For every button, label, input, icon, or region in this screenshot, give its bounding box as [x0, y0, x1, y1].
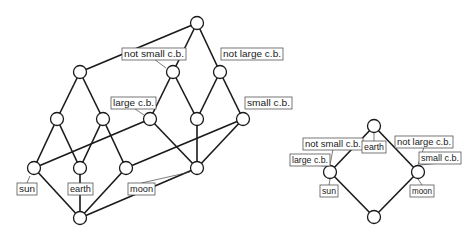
concept-label: not small c.b.	[122, 48, 186, 60]
concept-label: large c.b.	[290, 154, 330, 166]
label-text: small c.b.	[421, 152, 459, 163]
label-text: earth	[70, 183, 91, 194]
concept-label: not small c.b.	[303, 138, 363, 150]
label-leader-line	[80, 176, 81, 183]
concept-label: not large c.b.	[221, 48, 283, 60]
lattice-edge	[57, 72, 80, 119]
label-leader-line	[418, 179, 422, 185]
label-text: sun	[19, 183, 35, 194]
concept-label: large c.b.	[111, 97, 156, 109]
lattice-edge	[126, 119, 243, 168]
concept-node	[191, 17, 204, 30]
label-text: not large c.b.	[223, 48, 281, 59]
label-text: sun	[322, 185, 336, 196]
concept-node	[144, 113, 157, 126]
label-text: moon	[130, 183, 153, 194]
concept-label: small c.b.	[419, 152, 461, 164]
label-text: small c.b.	[247, 97, 290, 108]
right-concept-lattice: not small c.b.large c.b.earthsunnot larg…	[290, 120, 461, 224]
lattice-edge	[34, 119, 150, 168]
concept-node	[191, 162, 204, 175]
lattice-edge	[34, 119, 57, 168]
concept-node	[191, 113, 204, 126]
label-text: moon	[412, 185, 432, 196]
left-concept-lattice: not small c.b.not large c.b.large c.b.sm…	[17, 17, 292, 225]
lattice-edge	[197, 119, 243, 168]
label-text: not large c.b.	[397, 136, 451, 147]
label-text: earth	[364, 141, 384, 152]
concept-node	[412, 166, 425, 179]
lattice-edge	[173, 72, 197, 119]
concept-node	[97, 113, 110, 126]
lattice-edge	[57, 119, 80, 168]
label-leader-line	[27, 176, 30, 183]
concept-label: not large c.b.	[395, 136, 453, 148]
lattice-edge	[197, 72, 220, 119]
concept-label: small c.b.	[245, 97, 292, 109]
label-text: not small c.b.	[124, 48, 184, 59]
concept-node	[237, 113, 250, 126]
lattice-edge	[220, 72, 243, 119]
concept-node	[324, 166, 337, 179]
label-leader-line	[330, 149, 333, 165]
concept-label: sun	[17, 183, 37, 195]
concept-label: earth	[362, 141, 386, 153]
lattice-edge	[150, 72, 173, 119]
concept-lattice-diagrams: not small c.b.not large c.b.large c.b.sm…	[0, 0, 474, 238]
lattice-edge	[103, 119, 126, 168]
lattice-edge	[150, 119, 197, 168]
concept-label: earth	[68, 183, 93, 195]
concept-node	[74, 162, 87, 175]
lattice-edge	[80, 72, 103, 119]
concept-label: moon	[128, 183, 155, 195]
concept-label: sun	[320, 185, 338, 197]
concept-node	[74, 66, 87, 79]
concept-node	[120, 162, 133, 175]
concept-node	[28, 162, 41, 175]
concept-node	[167, 66, 180, 79]
lattice-edge	[197, 23, 220, 72]
concept-node	[214, 66, 227, 79]
concept-node	[368, 211, 381, 224]
concept-node	[74, 212, 87, 225]
concept-label: moon	[410, 185, 434, 197]
label-leader-line	[329, 179, 330, 185]
label-text: large c.b.	[292, 154, 328, 165]
concept-node	[368, 120, 381, 133]
label-text: not small c.b.	[305, 138, 361, 149]
label-text: large c.b.	[113, 97, 154, 108]
concept-node	[51, 113, 64, 126]
